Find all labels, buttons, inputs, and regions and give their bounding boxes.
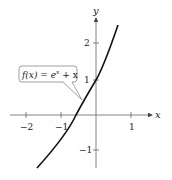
function-label: f(x) = ex + x <box>21 68 78 80</box>
x-tick-label: 1 <box>129 122 135 132</box>
function-graph: x y −2 −1 1 2 1 −1 f(x) = ex + x <box>0 0 172 180</box>
y-tick-label: −1 <box>79 145 92 155</box>
x-tick-label: −2 <box>20 122 33 132</box>
y-tick-label: 2 <box>84 38 90 48</box>
function-label-main: f(x) = e <box>21 70 56 80</box>
function-label-rest: + x <box>59 70 77 80</box>
y-tick-label: 1 <box>84 75 90 85</box>
x-axis-label: x <box>155 109 161 120</box>
function-curve <box>37 25 118 168</box>
function-callout: f(x) = ex + x <box>19 66 82 100</box>
y-axis-label: y <box>92 5 99 16</box>
